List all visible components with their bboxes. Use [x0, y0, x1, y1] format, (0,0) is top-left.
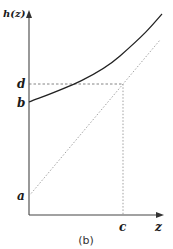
x-axis: [29, 212, 164, 218]
linear-dotted-line: [29, 40, 160, 196]
figure-caption: (b): [78, 234, 94, 247]
h-curve: [29, 14, 162, 102]
tick-label-b: b: [17, 96, 25, 110]
tick-label-c: c: [119, 220, 127, 234]
tick-label-a: a: [17, 189, 25, 203]
tick-label-d: d: [17, 77, 26, 91]
y-axis-arrow-icon: [26, 10, 32, 18]
diagram-canvas: h(z) d b a c z (b): [0, 0, 173, 249]
x-axis-arrow-icon: [156, 212, 164, 218]
y-axis: [26, 10, 32, 215]
x-axis-label: z: [154, 220, 163, 234]
y-axis-label: h(z): [3, 8, 26, 19]
